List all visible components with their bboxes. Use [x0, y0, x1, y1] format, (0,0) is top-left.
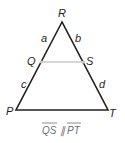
label-a: a [41, 32, 47, 44]
point-q [40, 60, 43, 63]
label-r: R [58, 7, 66, 19]
point-s [82, 60, 85, 63]
label-c: c [21, 78, 27, 90]
label-p: P [6, 105, 14, 117]
triangle-diagram: R Q S P T a b c d QS ∥ PT [0, 0, 125, 143]
label-s: S [86, 55, 94, 67]
label-q: Q [27, 55, 36, 67]
label-b: b [75, 32, 81, 44]
label-d: d [99, 78, 106, 90]
caption-parallel: ∥ [60, 125, 66, 137]
label-t: T [109, 107, 117, 119]
caption-qs: QS [42, 125, 57, 136]
caption-pt: PT [67, 125, 81, 136]
